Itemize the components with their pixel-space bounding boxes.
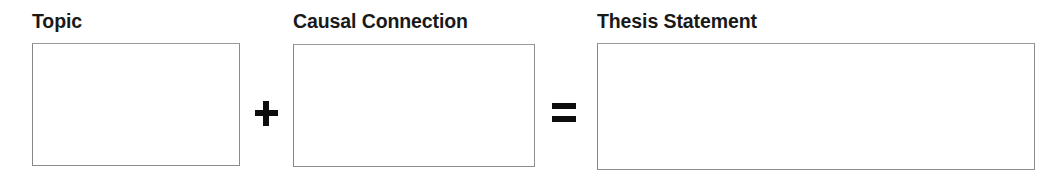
group-thesis-statement: Thesis Statement	[597, 12, 1035, 172]
equals-bottom-bar	[552, 116, 576, 122]
thesis-formula-graphic: Topic Causal Connection Thesis Statement	[0, 0, 1058, 179]
group-causal-connection: Causal Connection	[293, 12, 535, 167]
equals-top-bar	[552, 103, 576, 109]
input-box-topic[interactable]	[32, 43, 240, 166]
label-topic: Topic	[32, 12, 82, 32]
label-causal-connection: Causal Connection	[293, 12, 468, 32]
plus-vertical-bar	[263, 101, 269, 126]
plus-icon	[255, 101, 278, 126]
group-topic: Topic	[32, 12, 240, 167]
input-box-thesis-statement[interactable]	[597, 43, 1035, 170]
input-box-causal-connection[interactable]	[293, 44, 535, 167]
plus-operator-icon	[255, 101, 278, 126]
label-thesis-statement: Thesis Statement	[597, 12, 757, 32]
equals-icon	[552, 101, 576, 124]
equals-operator-icon	[552, 101, 576, 124]
